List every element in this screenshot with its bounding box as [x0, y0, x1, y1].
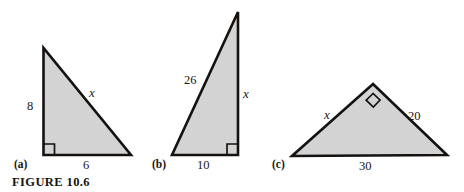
triangle-b-side-label-26: 26 — [184, 74, 197, 87]
figure-10-6: 8 x 6 (a) 26 x 10 (b) x 20 30 (c) FIGURE… — [0, 0, 464, 192]
triangle-c-shape — [292, 84, 447, 156]
figure-caption: FIGURE 10.6 — [12, 176, 90, 189]
triangle-c — [292, 84, 447, 156]
panel-label-a: (a) — [14, 159, 27, 171]
triangles-diagram — [0, 0, 464, 192]
triangle-b-shape — [172, 12, 238, 155]
triangle-a-shape — [44, 48, 132, 155]
panel-label-b: (b) — [152, 159, 166, 171]
triangle-b — [172, 12, 238, 155]
triangle-b-side-label-x: x — [243, 87, 249, 100]
triangle-c-side-label-20: 20 — [408, 110, 421, 123]
triangle-b-side-label-10: 10 — [197, 159, 210, 172]
panel-label-c: (c) — [272, 159, 285, 171]
triangle-a — [44, 48, 132, 155]
triangle-a-side-label-6: 6 — [83, 159, 89, 172]
triangle-c-side-label-x: x — [324, 108, 330, 121]
triangle-a-side-label-x: x — [89, 86, 95, 99]
triangle-c-side-label-30: 30 — [359, 160, 372, 173]
triangle-a-side-label-8: 8 — [27, 100, 33, 113]
